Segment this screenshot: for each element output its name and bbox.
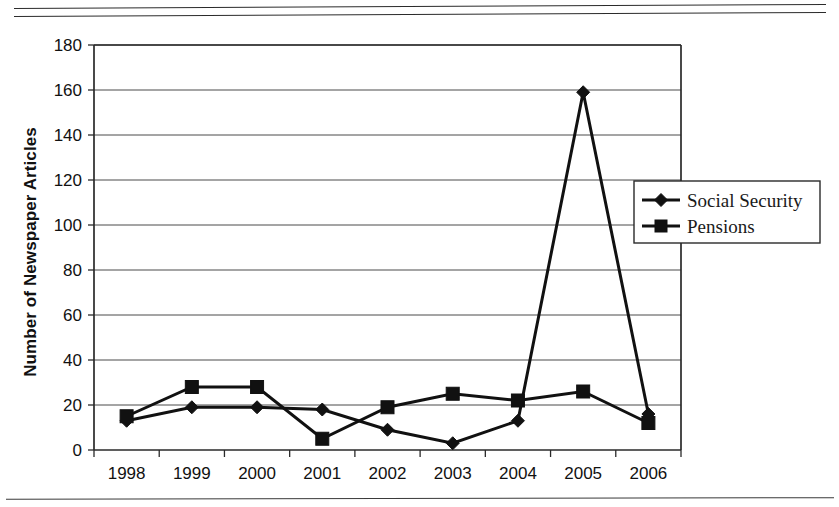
y-tick-label: 80 (63, 261, 82, 280)
x-tick-label: 1998 (108, 464, 146, 483)
page-rule-top-upper (14, 4, 826, 9)
data-point-marker (316, 432, 329, 445)
y-tick-label: 20 (63, 396, 82, 415)
chart-canvas: 020406080100120140160180 199819992000200… (0, 20, 839, 490)
data-point-marker (251, 381, 264, 394)
data-point-marker (185, 381, 198, 394)
data-series (120, 86, 655, 450)
data-point-marker (511, 394, 524, 407)
x-axis-tick-labels: 199819992000200120022003200420052006 (108, 464, 668, 483)
data-point-marker (446, 437, 459, 450)
data-point-marker (381, 401, 394, 414)
y-tick-label: 0 (73, 441, 82, 460)
y-tick-label: 120 (54, 171, 82, 190)
y-axis-tick-labels: 020406080100120140160180 (54, 36, 82, 460)
y-axis-ticks (88, 45, 94, 450)
x-tick-label: 2006 (629, 464, 667, 483)
data-point-marker (446, 387, 459, 400)
y-tick-label: 140 (54, 126, 82, 145)
x-tick-label: 2000 (238, 464, 276, 483)
legend-label: Pensions (687, 216, 755, 237)
x-tick-label: 2004 (499, 464, 537, 483)
data-point-marker (381, 423, 394, 436)
y-tick-label: 180 (54, 36, 82, 55)
gridlines (94, 45, 681, 405)
data-point-marker (120, 410, 133, 423)
x-tick-label: 2001 (303, 464, 341, 483)
x-tick-label: 2003 (434, 464, 472, 483)
data-point-marker (251, 401, 264, 414)
data-point-marker (185, 401, 198, 414)
plot-frame (94, 45, 681, 450)
data-point-marker (577, 86, 590, 99)
x-tick-label: 2002 (369, 464, 407, 483)
x-tick-label: 1999 (173, 464, 211, 483)
y-tick-label: 160 (54, 81, 82, 100)
line-chart-figure: Number of Newspaper Articles 02040608010… (0, 20, 839, 490)
legend-label: Social Security (687, 190, 803, 211)
data-point-marker (577, 385, 590, 398)
data-point-marker (511, 414, 524, 427)
page-rule-top-lower (14, 12, 826, 17)
x-axis-ticks (94, 450, 681, 457)
series-line-1 (127, 92, 649, 443)
y-tick-label: 40 (63, 351, 82, 370)
page-rule-bottom (6, 497, 834, 500)
chart-legend: Social SecurityPensions (634, 181, 820, 243)
y-tick-label: 100 (54, 216, 82, 235)
y-tick-label: 60 (63, 306, 82, 325)
square-marker-icon (655, 220, 667, 232)
data-point-marker (642, 417, 655, 430)
x-tick-label: 2005 (564, 464, 602, 483)
